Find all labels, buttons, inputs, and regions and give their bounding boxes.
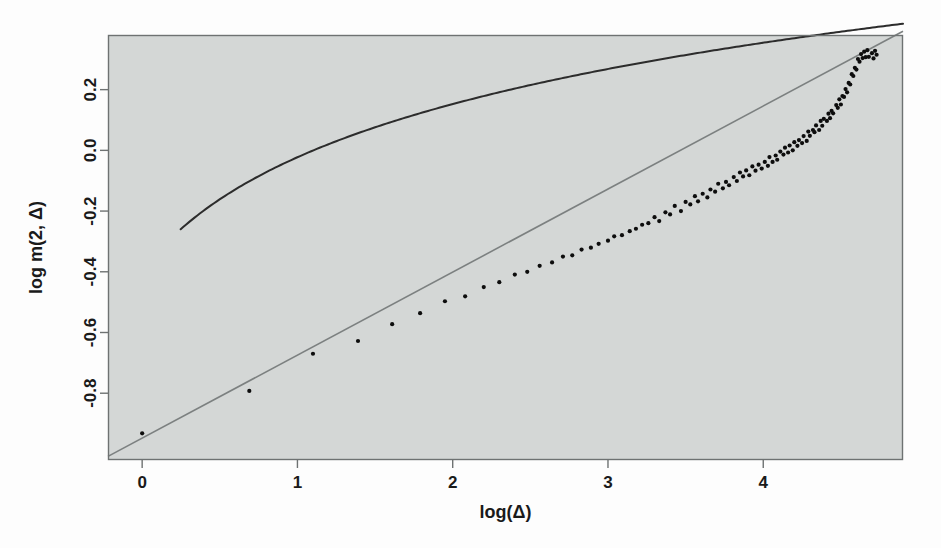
y-tick-label: -0.6 [81,318,100,347]
x-tick-label: 1 [293,473,302,492]
x-tick-label: 4 [759,473,769,492]
y-tick-label: 0.2 [81,78,100,102]
scatter-plot: 01234 0.20.0-0.2-0.4-0.6-0.8 log(Δ) log … [0,0,941,548]
figure-container: 01234 0.20.0-0.2-0.4-0.6-0.8 log(Δ) log … [0,0,941,548]
y-axis-label: log m(2, Δ) [26,201,46,294]
y-tick-label: -0.2 [81,196,100,225]
y-tick-label: -0.4 [81,257,100,287]
y-tick-label: 0.0 [81,139,100,163]
x-axis-label: log(Δ) [480,502,532,522]
y-tick-label: -0.8 [81,379,100,408]
plot-panel-background [108,35,903,460]
x-tick-label: 3 [603,473,612,492]
x-tick-label: 2 [448,473,457,492]
x-tick-label: 0 [137,473,146,492]
